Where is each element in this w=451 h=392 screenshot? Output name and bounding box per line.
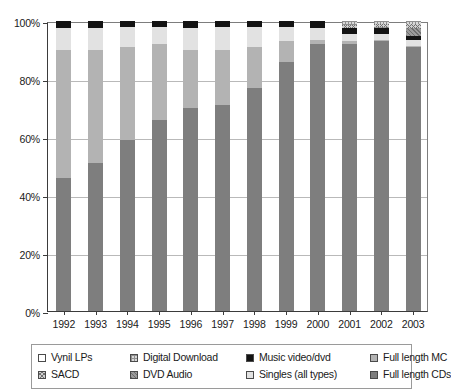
legend-item-sacd[interactable]: SACD [38, 369, 130, 380]
bar-segment-singles[interactable] [152, 27, 167, 44]
legend-label: Music video/dvd [259, 352, 331, 363]
bar-segment-music_video[interactable] [183, 21, 198, 28]
bar-2000[interactable] [310, 21, 325, 311]
legend-item-dvd-audio[interactable]: DVD Audio [130, 369, 246, 380]
bar-segment-mc[interactable] [215, 50, 230, 105]
bar-segment-cds[interactable] [406, 47, 421, 311]
bar-segment-singles[interactable] [120, 27, 135, 47]
bar-segment-music_video[interactable] [406, 36, 421, 40]
plot-area: 0%20%40%60%80%100%1992199319941995199619… [47, 22, 428, 312]
bar-segment-music_video[interactable] [247, 21, 262, 27]
bar-segment-singles[interactable] [374, 34, 389, 40]
x-axis-tick [127, 311, 128, 315]
x-axis-tick [350, 311, 351, 315]
bar-segment-mc[interactable] [310, 40, 325, 44]
legend-grid: Vynil LPsDigital DownloadMusic video/dvd… [38, 349, 405, 383]
legend-swatch-icon [370, 354, 378, 362]
y-axis-label: 20% [20, 249, 40, 261]
bar-segment-music_video[interactable] [56, 21, 71, 28]
plot-area-wrapper: 0%20%40%60%80%100%1992199319941995199619… [0, 0, 444, 340]
bar-segment-music_video[interactable] [342, 28, 357, 34]
legend-item-full-length-cds[interactable]: Full length CDs [370, 369, 451, 380]
bar-segment-cds[interactable] [120, 140, 135, 311]
bar-segment-cds[interactable] [247, 88, 262, 311]
bar-segment-sacd[interactable] [406, 24, 421, 28]
y-axis-label: 100% [14, 17, 40, 29]
bar-1999[interactable] [279, 21, 294, 311]
legend-item-singles-all-types[interactable]: Singles (all types) [246, 369, 370, 380]
x-axis-label: 1993 [84, 318, 107, 330]
bar-segment-mc[interactable] [120, 47, 135, 140]
legend-item-digital-download[interactable]: Digital Download [130, 352, 246, 363]
bar-segment-mc[interactable] [374, 40, 389, 42]
bar-segment-digital_download[interactable] [374, 21, 389, 24]
x-axis-tick [223, 311, 224, 315]
bar-segment-mc[interactable] [406, 46, 421, 47]
bar-segment-digital_download[interactable] [406, 21, 421, 24]
bar-segment-mc[interactable] [88, 50, 103, 163]
bar-segment-singles[interactable] [342, 34, 357, 41]
x-axis-label: 1994 [116, 318, 139, 330]
bar-segment-music_video[interactable] [215, 21, 230, 27]
bar-segment-mc[interactable] [56, 50, 71, 178]
x-axis-label: 1997 [211, 318, 234, 330]
x-axis-label: 2000 [307, 318, 330, 330]
bar-segment-dvd_audio[interactable] [406, 28, 421, 35]
legend-swatch-icon [370, 371, 378, 379]
bar-1998[interactable] [247, 21, 262, 311]
bar-segment-digital_download[interactable] [342, 21, 357, 25]
bar-segment-singles[interactable] [310, 28, 325, 40]
bar-1994[interactable] [120, 21, 135, 311]
bar-2003[interactable] [406, 21, 421, 311]
bar-1997[interactable] [215, 21, 230, 311]
bar-segment-mc[interactable] [247, 47, 262, 88]
bar-segment-dvd_audio[interactable] [374, 27, 389, 28]
bar-segment-sacd[interactable] [342, 25, 357, 28]
bar-2001[interactable] [342, 21, 357, 311]
bar-segment-singles[interactable] [183, 28, 198, 50]
bar-segment-singles[interactable] [247, 27, 262, 47]
y-axis-label: 60% [20, 133, 40, 145]
bar-segment-music_video[interactable] [152, 21, 167, 27]
bar-segment-cds[interactable] [374, 41, 389, 311]
bar-segment-cds[interactable] [152, 120, 167, 311]
bar-segment-music_video[interactable] [120, 21, 135, 27]
bar-segment-music_video[interactable] [374, 28, 389, 34]
legend-item-vynil-lps[interactable]: Vynil LPs [38, 352, 130, 363]
x-axis-tick [191, 311, 192, 315]
gridline [48, 255, 427, 256]
bar-segment-mc[interactable] [279, 41, 294, 61]
bar-segment-sacd[interactable] [374, 24, 389, 27]
bar-segment-cds[interactable] [279, 62, 294, 311]
bar-segment-mc[interactable] [342, 41, 357, 44]
x-axis-label: 1998 [243, 318, 266, 330]
bar-1993[interactable] [88, 21, 103, 311]
x-axis-label: 1996 [180, 318, 203, 330]
legend-label: Digital Download [143, 352, 218, 363]
bar-1996[interactable] [183, 21, 198, 311]
bar-segment-singles[interactable] [56, 28, 71, 50]
bar-segment-singles[interactable] [279, 27, 294, 42]
bar-segment-cds[interactable] [88, 163, 103, 311]
x-axis-tick [318, 311, 319, 315]
bar-segment-music_video[interactable] [88, 21, 103, 28]
gridline [48, 81, 427, 82]
bar-segment-singles[interactable] [88, 28, 103, 50]
bar-1995[interactable] [152, 21, 167, 311]
bar-segment-mc[interactable] [183, 50, 198, 108]
bar-segment-music_video[interactable] [310, 21, 325, 28]
legend-item-full-length-mc[interactable]: Full length MC [370, 352, 451, 363]
bar-segment-cds[interactable] [215, 105, 230, 311]
bar-segment-mc[interactable] [152, 44, 167, 119]
bar-segment-cds[interactable] [310, 44, 325, 311]
bar-1992[interactable] [56, 21, 71, 311]
bar-segment-music_video[interactable] [279, 21, 294, 27]
bar-segment-singles[interactable] [406, 40, 421, 46]
legend-item-music-video-dvd[interactable]: Music video/dvd [246, 352, 370, 363]
bar-segment-cds[interactable] [56, 178, 71, 311]
bar-2002[interactable] [374, 21, 389, 311]
bar-segment-cds[interactable] [342, 44, 357, 311]
bar-segment-cds[interactable] [183, 108, 198, 311]
y-axis-tick [43, 81, 48, 82]
bar-segment-singles[interactable] [215, 27, 230, 50]
